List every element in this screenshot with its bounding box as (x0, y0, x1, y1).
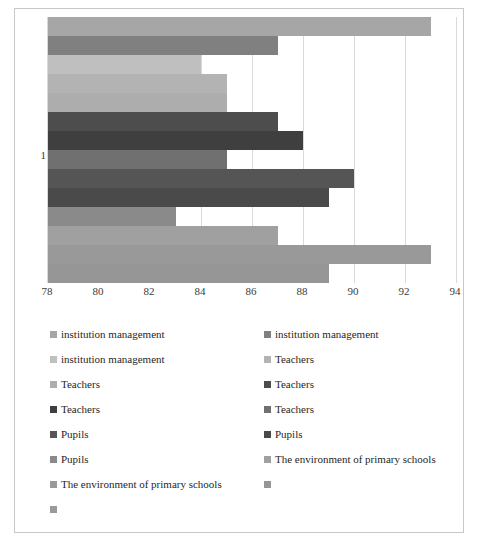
legend-swatch-icon (264, 331, 271, 338)
bar (48, 207, 176, 226)
legend-item[interactable] (50, 502, 61, 516)
bar (48, 93, 227, 112)
legend-swatch-icon (50, 431, 57, 438)
legend-item[interactable]: The environment of primary schools (264, 452, 436, 466)
x-axis-tick-label: 86 (246, 285, 257, 298)
legend-swatch-icon (264, 456, 271, 463)
legend-label: institution management (275, 328, 379, 341)
legend-label: Teachers (275, 378, 314, 391)
legend-label: The environment of primary schools (275, 453, 436, 466)
legend-item[interactable]: Teachers (50, 402, 100, 416)
legend-label: Teachers (275, 403, 314, 416)
legend-label: institution management (61, 353, 165, 366)
legend-swatch-icon (264, 381, 271, 388)
legend-swatch-icon (264, 356, 271, 363)
x-axis: 788082848688909294 (47, 283, 455, 303)
plot-region: 1 788082848688909294 (24, 17, 456, 297)
bar (48, 188, 329, 207)
x-axis-tick-label: 82 (144, 285, 155, 298)
bar (48, 74, 227, 93)
legend-swatch-icon (50, 506, 57, 513)
legend-label: Pupils (61, 428, 89, 441)
x-axis-tick-label: 88 (297, 285, 308, 298)
legend-label: institution management (61, 328, 165, 341)
x-axis-tick-label: 92 (399, 285, 410, 298)
bar (48, 150, 227, 169)
legend-swatch-icon (264, 406, 271, 413)
bar (48, 245, 431, 264)
bar (48, 131, 303, 150)
legend-item[interactable]: Teachers (264, 377, 314, 391)
bar (48, 36, 278, 55)
legend-item[interactable]: The environment of primary schools (50, 477, 222, 491)
legend-item[interactable]: Teachers (50, 377, 100, 391)
x-axis-tick-label: 94 (450, 285, 461, 298)
chart-legend: institution managementinstitution manage… (24, 327, 456, 525)
legend-swatch-icon (264, 431, 271, 438)
legend-swatch-icon (50, 381, 57, 388)
legend-item[interactable]: Teachers (264, 402, 314, 416)
legend-item[interactable]: institution management (50, 352, 165, 366)
chart-frame: 1 788082848688909294 institution managem… (14, 8, 464, 533)
bar (48, 112, 278, 131)
bar (48, 264, 329, 283)
bar (48, 17, 431, 36)
legend-item[interactable]: Teachers (264, 352, 314, 366)
legend-label: Teachers (275, 353, 314, 366)
plot-area (47, 17, 455, 283)
category-axis-label: 1 (24, 149, 46, 161)
legend-item[interactable]: Pupils (264, 427, 303, 441)
x-axis-tick-label: 80 (93, 285, 104, 298)
legend-swatch-icon (50, 331, 57, 338)
bar (48, 55, 201, 74)
legend-swatch-icon (264, 481, 271, 488)
legend-item[interactable]: institution management (50, 327, 165, 341)
legend-swatch-icon (50, 406, 57, 413)
legend-label: Teachers (61, 403, 100, 416)
legend-swatch-icon (50, 356, 57, 363)
x-axis-tick-label: 78 (42, 285, 53, 298)
legend-swatch-icon (50, 456, 57, 463)
legend-item[interactable]: Pupils (50, 452, 89, 466)
legend-label: Pupils (61, 453, 89, 466)
gridline (456, 17, 457, 283)
x-axis-tick-label: 90 (348, 285, 359, 298)
legend-item[interactable]: institution management (264, 327, 379, 341)
legend-label: Teachers (61, 378, 100, 391)
legend-item[interactable]: Pupils (50, 427, 89, 441)
bar (48, 169, 354, 188)
legend-label: Pupils (275, 428, 303, 441)
legend-label: The environment of primary schools (61, 478, 222, 491)
legend-item[interactable] (264, 477, 275, 491)
legend-swatch-icon (50, 481, 57, 488)
bar (48, 226, 278, 245)
bars-layer (48, 17, 455, 283)
x-axis-tick-label: 84 (195, 285, 206, 298)
